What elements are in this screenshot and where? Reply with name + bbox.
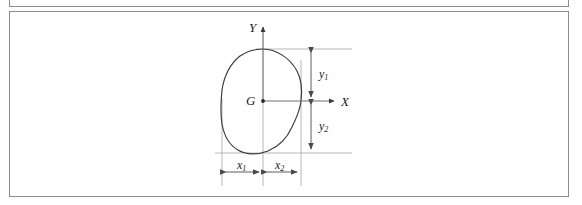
dimension-x2-label: x2 bbox=[275, 159, 284, 171]
x-axis-label: X bbox=[341, 95, 349, 108]
figure-page: Y X G y1 y2 x1 x2 bbox=[0, 0, 582, 205]
centroid-label: G bbox=[246, 94, 255, 107]
figure-frame bbox=[9, 11, 569, 197]
dimension-x1-label-sub: 1 bbox=[242, 164, 246, 173]
dimension-y1-label-sub: 1 bbox=[324, 73, 328, 82]
dimension-y1-label: y1 bbox=[319, 68, 328, 80]
dimension-y2-label-sub: 2 bbox=[324, 125, 328, 134]
preceding-box-bottom-edge bbox=[9, 0, 569, 7]
dimension-x1-label: x1 bbox=[237, 159, 246, 171]
dimension-y2-label: y2 bbox=[319, 120, 328, 132]
y-axis-label: Y bbox=[249, 21, 256, 34]
dimension-x2-label-sub: 2 bbox=[280, 164, 284, 173]
